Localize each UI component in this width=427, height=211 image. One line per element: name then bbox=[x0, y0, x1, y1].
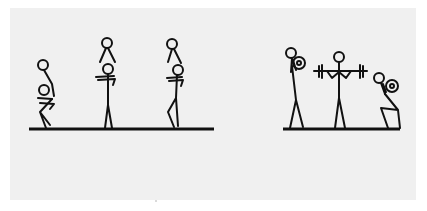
figure-standing-carrier bbox=[96, 38, 115, 128]
stick-figure-diagram bbox=[0, 0, 427, 211]
figure-kneeling-plate-holder bbox=[374, 73, 400, 128]
figure-crouching-carrier bbox=[38, 60, 54, 128]
figure-barbell-lifter bbox=[314, 52, 367, 128]
figure-squatting-carrier bbox=[167, 39, 183, 127]
figure-standing-plate-holder bbox=[286, 48, 305, 128]
speck bbox=[155, 200, 156, 201]
